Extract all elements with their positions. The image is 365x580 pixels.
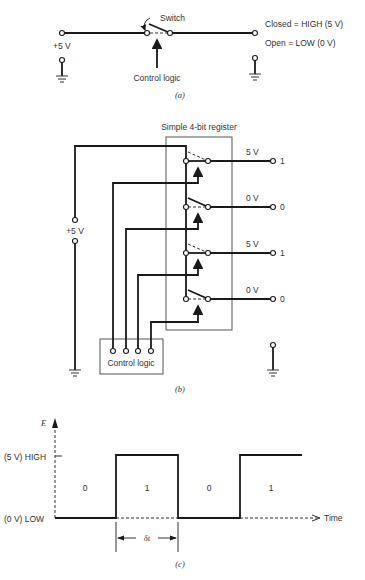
ground-icon: [69, 370, 81, 376]
signal-waveform: [55, 455, 302, 518]
control-logic-box: [100, 339, 163, 374]
panel-a-caption: (a): [175, 90, 185, 100]
supply-voltage-label: +5 V: [66, 226, 84, 236]
switch-blade: [149, 24, 168, 32]
bit-value-label: 1: [280, 248, 285, 258]
bit-voltage-label: 5 V: [246, 239, 259, 249]
panel-b-caption: (b): [175, 384, 185, 394]
register-bit-2: 0 V 0: [184, 193, 286, 212]
low-level-label: (0 V) LOW: [4, 514, 44, 524]
bit-label: 0: [207, 483, 212, 493]
interval-label: δt: [144, 533, 151, 543]
bit-value-label: 0: [280, 202, 285, 212]
bit-voltage-label: 0 V: [246, 193, 259, 203]
panel-b-register-diagram: Simple 4-bit register +5 V 5 V 1: [66, 122, 285, 394]
bit-label: 1: [269, 483, 274, 493]
bit-label: 0: [83, 483, 88, 493]
register-title: Simple 4-bit register: [161, 122, 237, 132]
control-line-3: [138, 260, 198, 349]
bit-voltage-label: 0 V: [246, 285, 259, 295]
closed-high-label: Closed = HIGH (5 V): [265, 19, 343, 29]
supply-voltage-label: +5 V: [53, 41, 71, 51]
time-axis-label: Time: [324, 513, 343, 523]
y-axis-arrow-icon: [52, 418, 58, 428]
register-bit-3: 5 V 1: [184, 239, 286, 258]
bit-value-label: 0: [280, 294, 285, 304]
register-bit-4: 0 V 0: [184, 285, 286, 304]
supply-terminal: [60, 31, 65, 36]
switch-pivot-terminal: [145, 31, 150, 36]
register-box: [166, 137, 232, 330]
panel-a-switch-diagram: Switch Closed = HIGH (5 V) Open = LOW (0…: [53, 13, 343, 100]
control-logic-label: Control logic: [107, 358, 155, 368]
bit-value-label: 1: [280, 156, 285, 166]
ground-icon: [249, 56, 261, 81]
control-line-2: [126, 214, 198, 349]
register-bit-1: 5 V 1: [184, 147, 286, 166]
panel-c-timing-diagram: E (5 V) HIGH (0 V) LOW Time 0 1 0 1 δt (…: [4, 418, 343, 569]
control-logic-label: Control logic: [133, 73, 181, 83]
output-terminal: [253, 31, 258, 36]
control-line-4: [151, 306, 198, 349]
figure: Switch Closed = HIGH (5 V) Open = LOW (0…: [0, 0, 365, 580]
panel-c-caption: (c): [175, 559, 185, 569]
open-low-label: Open = LOW (0 V): [265, 38, 336, 48]
high-level-label: (5 V) HIGH: [4, 452, 46, 462]
bit-label: 1: [145, 483, 150, 493]
ground-icon: [267, 343, 279, 377]
bit-voltage-label: 5 V: [246, 147, 259, 157]
y-axis-label: E: [40, 418, 47, 428]
ground-icon: [56, 58, 68, 83]
switch-label: Switch: [160, 13, 185, 23]
